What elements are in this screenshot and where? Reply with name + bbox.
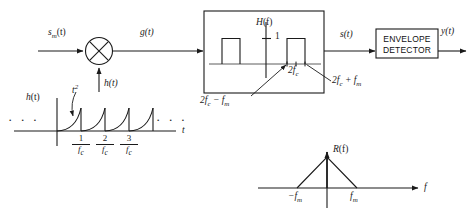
tick-2-numerator: 2 [96,134,114,143]
tick-label-1: 1 fc [72,134,90,157]
time-axis-label: t [182,126,185,136]
filter-output-label: s(t) [340,30,353,40]
final-output-label: y(t) [441,27,454,37]
tick-3-denominator: fc [120,145,138,156]
multiplier-symbol [86,38,113,65]
frequency-axis-label: f [424,183,427,193]
t-squared-annotation: t2 [72,84,78,96]
impulse-response-label: h(t) [26,93,40,103]
local-oscillator-label: h(t) [104,79,118,89]
upper-band-edge-label: 2fc + fm [332,76,361,88]
spectrum-label: R(f) [333,145,348,155]
tick-1-denominator: fc [72,145,90,156]
tick-3-numerator: 3 [120,134,138,143]
input-signal-label: sm(t) [48,28,66,40]
envelope-detector-line1: ENVELOPE [376,34,438,45]
mixer-output-label: g(t) [140,28,154,38]
tick-label-3: 3 fc [120,134,138,157]
diagram-canvas: sm(t) g(t) h(t) H(f) 1 2fc 2fc − fm 2fc … [0,0,470,216]
envelope-detector-label: ENVELOPE DETECTOR [376,34,438,55]
tick-1-numerator: 1 [72,134,90,143]
envelope-detector-line2: DETECTOR [376,45,438,56]
center-frequency-label: 2fc [288,66,299,78]
negative-fm-tick-label: −fm [288,192,302,204]
tick-2-denominator: fc [96,145,114,156]
positive-fm-tick-label: fm [350,192,358,204]
lower-band-edge-label: 2fc − fm [200,96,229,108]
diagram-vector-layer [0,0,470,216]
spectrum-plot [258,152,418,208]
filter-gain-label: 1 [275,32,280,42]
tick-label-2: 2 fc [96,134,114,157]
left-ellipsis: · · · [8,113,40,126]
filter-response-label: H(f) [256,18,272,28]
